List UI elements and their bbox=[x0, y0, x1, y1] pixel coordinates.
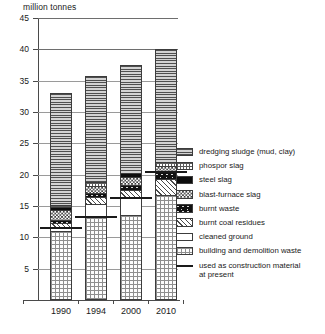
bar-segment-1990-steel-slag bbox=[51, 208, 71, 211]
gridline-45 bbox=[38, 18, 178, 19]
legend-item-used-as-construction-material-at-present[interactable]: used as construction material at present bbox=[176, 261, 324, 279]
y-tick-35 bbox=[33, 81, 38, 82]
bar-segment-2010-dredging-sludge-mud-clay- bbox=[156, 50, 176, 162]
construction-material-marker-2000 bbox=[110, 197, 152, 199]
chart-container: million tonnes 51015202530354045 1990199… bbox=[0, 0, 325, 334]
bar-segment-2010-burnt-waste bbox=[156, 173, 176, 181]
y-tick-15 bbox=[33, 206, 38, 207]
legend-swatch-checkerboard-icon bbox=[176, 190, 193, 199]
bar-1994[interactable] bbox=[85, 76, 107, 300]
x-tick-1990 bbox=[78, 300, 79, 304]
legend-item-cleaned-ground[interactable]: cleaned ground bbox=[176, 232, 324, 241]
construction-material-marker-1994 bbox=[75, 216, 117, 218]
legend-swatch-white-icon bbox=[176, 233, 193, 242]
y-tick-label-5: 5 bbox=[0, 264, 29, 274]
legend-item-blast-furnace-slag[interactable]: blast-furnace slag bbox=[176, 190, 324, 199]
bar-segment-2000-building-and-demolition-waste bbox=[121, 216, 141, 300]
legend-label: used as construction material at present bbox=[199, 261, 300, 279]
y-tick-label-20: 20 bbox=[0, 170, 29, 180]
legend-label: burnt waste bbox=[199, 204, 239, 213]
bar-segment-1994-building-and-demolition-waste bbox=[86, 218, 106, 300]
legend-swatch-black-speckled-icon bbox=[176, 204, 193, 213]
x-tick-1994 bbox=[113, 300, 114, 304]
legend-label: building and demolition waste bbox=[199, 246, 301, 255]
y-tick-20 bbox=[33, 175, 38, 176]
bar-segment-1990-dredging-sludge-mud-clay- bbox=[51, 94, 71, 206]
bar-2010[interactable] bbox=[155, 49, 177, 300]
construction-material-marker-1990 bbox=[40, 227, 82, 229]
bar-segment-1990-building-and-demolition-waste bbox=[51, 232, 71, 300]
legend-item-burnt-coal-residues[interactable]: burnt coal residues bbox=[176, 218, 324, 227]
legend-swatch-solid-black-icon bbox=[176, 176, 193, 185]
bar-segment-2000-cleaned-ground bbox=[121, 199, 141, 216]
bar-segment-1990-phospor-slag bbox=[51, 206, 71, 209]
legend-swatch-fine-grid-dots-icon bbox=[176, 162, 193, 171]
bar-segment-2000-steel-slag bbox=[121, 174, 141, 178]
legend-label: cleaned ground bbox=[199, 232, 253, 241]
legend-swatch-rule-icon bbox=[176, 261, 193, 270]
legend-item-building-and-demolition-waste[interactable]: building and demolition waste bbox=[176, 246, 324, 255]
y-tick-5 bbox=[33, 269, 38, 270]
y-tick-label-15: 15 bbox=[0, 201, 29, 211]
bar-segment-1994-dredging-sludge-mud-clay- bbox=[86, 77, 106, 183]
bar-segment-2010-burnt-coal-residues bbox=[156, 180, 176, 196]
bar-segment-1994-blast-furnace-slag bbox=[86, 187, 106, 195]
legend-label: burnt coal residues bbox=[199, 218, 265, 227]
bar-segment-2010-phospor-slag bbox=[156, 163, 176, 167]
y-tick-45 bbox=[33, 18, 38, 19]
bar-segment-1990-cleaned-ground bbox=[51, 229, 71, 232]
x-tick-2000 bbox=[148, 300, 149, 304]
bar-2000[interactable] bbox=[120, 65, 142, 300]
y-tick-40 bbox=[33, 49, 38, 50]
y-tick-label-30: 30 bbox=[0, 107, 29, 117]
bar-segment-2010-building-and-demolition-waste bbox=[156, 196, 176, 300]
bar-1990[interactable] bbox=[50, 93, 72, 300]
bar-segment-1994-phospor-slag bbox=[86, 183, 106, 187]
bar-segment-2000-burnt-waste bbox=[121, 186, 141, 192]
legend-label: blast-furnace slag bbox=[199, 190, 261, 199]
x-tick-start bbox=[23, 300, 24, 304]
legend-swatch-sparse-dots-icon bbox=[176, 247, 193, 256]
legend-swatch-horizontal-lines-icon bbox=[176, 148, 193, 157]
y-tick-25 bbox=[33, 143, 38, 144]
x-tick-label-2010: 2010 bbox=[144, 306, 188, 316]
y-tick-label-45: 45 bbox=[0, 13, 29, 23]
y-tick-label-25: 25 bbox=[0, 138, 29, 148]
bar-segment-2000-dredging-sludge-mud-clay- bbox=[121, 66, 141, 174]
legend: dredging sludge (mud, clay)phospor slags… bbox=[176, 147, 324, 284]
bar-segment-2000-blast-furnace-slag bbox=[121, 178, 141, 186]
bar-segment-1990-blast-furnace-slag bbox=[51, 211, 71, 220]
y-axis-unit-label: million tonnes bbox=[23, 2, 76, 12]
bar-segment-1994-burnt-waste bbox=[86, 194, 106, 197]
bar-segment-1994-burnt-coal-residues bbox=[86, 198, 106, 206]
bar-segment-1990-burnt-waste bbox=[51, 221, 71, 224]
legend-label: dredging sludge (mud, clay) bbox=[199, 147, 295, 156]
y-tick-30 bbox=[33, 112, 38, 113]
y-tick-label-40: 40 bbox=[0, 44, 29, 54]
x-tick-2010 bbox=[183, 300, 184, 304]
x-axis-line bbox=[23, 300, 180, 301]
legend-label: steel slag bbox=[199, 175, 232, 184]
plot-area bbox=[38, 18, 178, 300]
legend-item-dredging-sludge-mud-clay[interactable]: dredging sludge (mud, clay) bbox=[176, 147, 324, 156]
y-tick-label-10: 10 bbox=[0, 232, 29, 242]
legend-item-phospor-slag[interactable]: phospor slag bbox=[176, 161, 324, 170]
legend-item-steel-slag[interactable]: steel slag bbox=[176, 175, 324, 184]
y-tick-label-35: 35 bbox=[0, 76, 29, 86]
legend-item-burnt-waste[interactable]: burnt waste bbox=[176, 204, 324, 213]
legend-label: phospor slag bbox=[199, 161, 244, 170]
y-tick-10 bbox=[33, 237, 38, 238]
legend-swatch-diagonal-hatch-icon bbox=[176, 218, 193, 227]
